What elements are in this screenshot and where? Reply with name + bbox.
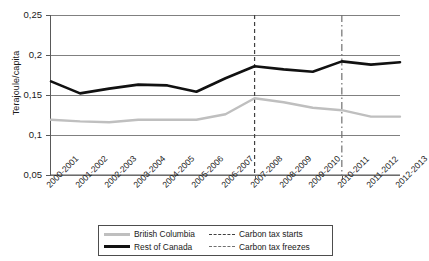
x-axis-tick (255, 176, 256, 180)
y-axis-tick (46, 55, 51, 56)
plot-area (51, 15, 400, 175)
y-axis-tick (46, 15, 51, 16)
legend-item: Rest of Canada (104, 242, 209, 252)
legend-swatch-icon (209, 234, 235, 235)
y-axis-tick (46, 95, 51, 96)
legend-label: Carbon tax starts (239, 229, 303, 239)
y-tick-label: 0,25 (8, 10, 42, 20)
y-tick-label: 0,1 (8, 130, 42, 140)
y-axis-tick-labels: 0,250,20,150,10,05 (8, 0, 42, 200)
y-tick-label: 0,2 (8, 50, 42, 60)
series-line (51, 98, 400, 122)
legend-swatch-icon (209, 246, 235, 247)
x-axis-tick-labels: 2000-20012001-20022002-20032003-20042004… (0, 176, 418, 224)
legend-item: Carbon tax freezes (209, 242, 339, 252)
y-axis-tick (46, 175, 51, 176)
legend-label: British Columbia (134, 229, 195, 239)
series-line (51, 61, 400, 93)
x-axis-tick (342, 176, 343, 180)
legend-item: British Columbia (104, 229, 209, 239)
y-axis-tick (46, 135, 51, 136)
series-layer (51, 15, 400, 175)
legend-label: Rest of Canada (134, 242, 192, 252)
y-tick-label: 0,15 (8, 90, 42, 100)
legend-item: Carbon tax starts (209, 229, 339, 239)
chart-legend: British ColumbiaCarbon tax startsRest of… (98, 225, 333, 256)
legend-swatch-icon (104, 233, 130, 236)
legend-label: Carbon tax freezes (239, 242, 310, 252)
legend-swatch-icon (104, 245, 130, 248)
